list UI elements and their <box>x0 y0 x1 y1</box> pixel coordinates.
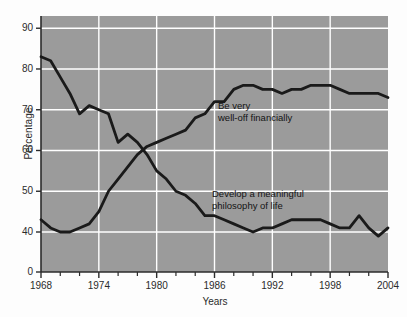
x-tick-label: 1998 <box>310 281 350 291</box>
line-chart <box>0 0 407 317</box>
x-tick-label: 1986 <box>195 281 235 291</box>
annotation-be-very-well-off: Be very well-off financially <box>218 100 292 123</box>
annotation-upper-line1: Be very <box>218 100 292 112</box>
y-tick-label: 80 <box>7 64 33 74</box>
y-tick-label: 40 <box>7 227 33 237</box>
annotation-lower-line2: philosophy of life <box>212 200 304 212</box>
y-tick-label: 60 <box>7 145 33 155</box>
annotation-upper-line2: well-off financially <box>218 112 292 124</box>
x-tick-label: 1992 <box>252 281 292 291</box>
x-axis-title: Years <box>41 296 389 307</box>
x-tick-marks <box>41 272 388 278</box>
x-tick-label: 1980 <box>137 281 177 291</box>
y-tick-label: 50 <box>7 186 33 196</box>
annotation-develop-philosophy: Develop a meaningful philosophy of life <box>212 188 304 211</box>
annotation-lower-line1: Develop a meaningful <box>212 188 304 200</box>
x-tick-label: 1968 <box>21 281 61 291</box>
x-tick-label: 2004 <box>368 281 407 291</box>
y-tick-label: 90 <box>7 23 33 33</box>
y-tick-label: 0 <box>7 267 33 277</box>
x-tick-label: 1974 <box>79 281 119 291</box>
y-tick-label: 70 <box>7 105 33 115</box>
y-axis-title: Percentage <box>23 89 34 179</box>
chart-container: Percentage Years 0405060708090 196819741… <box>0 0 407 317</box>
